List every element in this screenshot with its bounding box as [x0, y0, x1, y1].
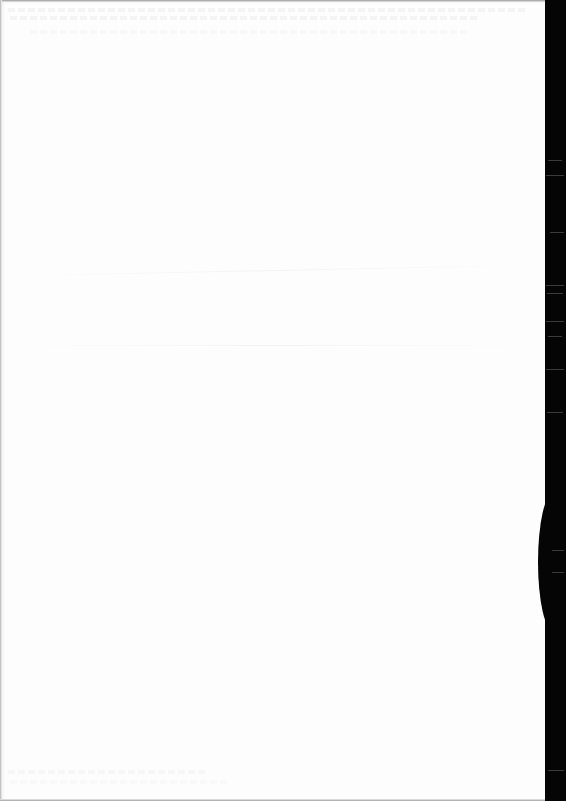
scanner-streak: [548, 160, 562, 161]
page-left-edge: [0, 0, 2, 801]
scanner-streak: [548, 770, 564, 771]
scanned-document: [0, 0, 566, 801]
scanner-streak: [546, 321, 564, 322]
paper-fold-line: [0, 345, 545, 346]
paper-fold-line: [0, 264, 545, 276]
scanner-streak: [546, 369, 564, 370]
scanner-streak: [546, 285, 564, 286]
scanner-streak: [547, 412, 563, 413]
page-top-edge: [0, 0, 545, 2]
scanner-streak: [550, 232, 564, 233]
blank-page: [0, 0, 545, 801]
scanner-streak: [546, 175, 564, 176]
show-through-text: [10, 16, 480, 20]
scanner-streak: [547, 293, 563, 294]
scanner-streak: [548, 336, 562, 337]
scanner-streak: [552, 550, 564, 551]
show-through-text: [8, 770, 208, 774]
show-through-text: [30, 30, 470, 34]
show-through-text: [8, 8, 528, 12]
scanner-streak: [552, 572, 564, 573]
show-through-text: [10, 780, 230, 784]
